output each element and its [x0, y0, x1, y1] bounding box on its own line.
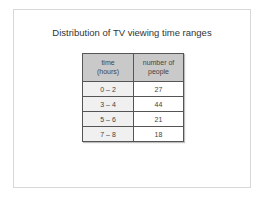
table-row: 7 – 8 18 [83, 127, 184, 142]
cell-range: 3 – 4 [83, 97, 134, 112]
cell-count: 27 [134, 82, 184, 97]
table-title: Distribution of TV viewing time ranges [14, 27, 250, 38]
cell-count: 18 [134, 127, 184, 142]
table-row: 0 – 2 27 [83, 82, 184, 97]
header-row: time(hours) number ofpeople [83, 54, 184, 82]
cell-range: 5 – 6 [83, 112, 134, 127]
header-time: time(hours) [83, 54, 134, 82]
cell-count: 44 [134, 97, 184, 112]
cell-count: 21 [134, 112, 184, 127]
table-row: 3 – 4 44 [83, 97, 184, 112]
data-table: time(hours) number ofpeople 0 – 2 27 3 –… [82, 53, 184, 142]
content-card: Distribution of TV viewing time ranges t… [13, 9, 251, 188]
cell-range: 0 – 2 [83, 82, 134, 97]
table-row: 5 – 6 21 [83, 112, 184, 127]
cell-range: 7 – 8 [83, 127, 134, 142]
header-count: number ofpeople [134, 54, 184, 82]
